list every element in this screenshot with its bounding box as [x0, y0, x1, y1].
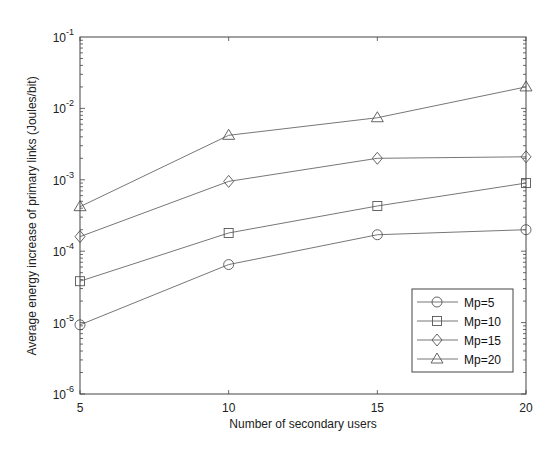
y-tick-label: 10-6 [53, 384, 74, 402]
legend-label: Mp=20 [464, 353, 501, 367]
x-tick-label: 10 [222, 401, 236, 415]
series-mp-15 [75, 151, 531, 243]
y-tick-label: 10-4 [53, 241, 74, 259]
legend-label: Mp=5 [464, 296, 495, 310]
y-tick-label: 10-2 [53, 98, 74, 116]
x-tick-label: 20 [519, 401, 533, 415]
y-tick-label: 10-3 [53, 170, 74, 188]
line-chart: 10-610-510-410-310-210-1 5101520 Number … [0, 0, 557, 455]
y-axis-label: Average energy increase of primary links… [25, 76, 39, 355]
x-tick-labels: 5101520 [77, 401, 533, 415]
series-line [80, 157, 526, 237]
x-tick-label: 15 [371, 401, 385, 415]
series-mp-20 [74, 81, 532, 211]
legend: Mp=5Mp=10Mp=15Mp=20 [412, 289, 513, 372]
legend-label: Mp=15 [464, 334, 501, 348]
y-tick-labels: 10-610-510-410-310-210-1 [53, 27, 74, 402]
y-tick-label: 10-1 [53, 27, 74, 45]
y-tick-label: 10-5 [53, 313, 74, 331]
legend-label: Mp=10 [464, 315, 501, 329]
series-line [80, 87, 526, 207]
x-tick-label: 5 [77, 401, 84, 415]
x-axis-label: Number of secondary users [229, 417, 376, 431]
